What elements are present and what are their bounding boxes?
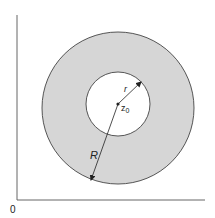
annulus-diagram: r z0 R 0 bbox=[0, 0, 215, 218]
outer-radius-label: R bbox=[90, 149, 98, 161]
center-label-subscript: 0 bbox=[126, 107, 130, 114]
center-point bbox=[116, 102, 119, 105]
origin-label: 0 bbox=[10, 204, 16, 215]
